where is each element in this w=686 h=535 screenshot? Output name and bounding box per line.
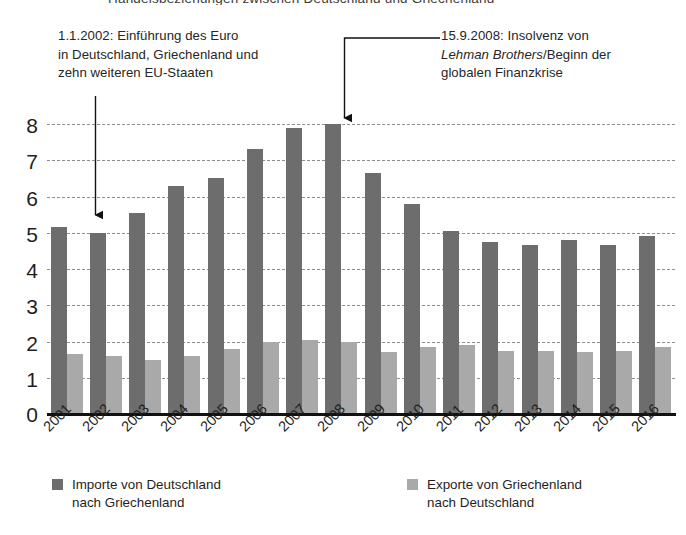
bar-export-2009[interactable] [381,352,397,414]
bar-group-2001 [47,124,86,414]
bar-import-2008[interactable] [325,124,341,414]
bar-group-2006 [243,124,282,414]
annotation-lehman-company: Lehman Brothers [441,47,543,62]
page-title: Handelsbeziehungen zwischen Deutschland … [108,0,578,5]
bar-group-2005 [204,124,243,414]
leader-line-lehman [345,38,441,118]
bar-export-2005[interactable] [224,349,240,414]
plot-area: 012345678 [47,124,675,414]
bar-group-2008 [322,124,361,414]
bar-import-2016[interactable] [639,236,655,414]
annotation-euro-line2: in Deutschland, Griechenland und [58,46,320,65]
bar-import-2013[interactable] [522,245,538,414]
bar-import-2011[interactable] [443,231,459,414]
bar-group-2007 [283,124,322,414]
annotation-euro-line1: 1.1.2002: Einführung des Euro [58,27,320,46]
bar-group-2013 [518,124,557,414]
bar-import-2002[interactable] [90,233,106,414]
bar-group-2016 [636,124,675,414]
bar-import-2006[interactable] [247,149,263,414]
bars-layer [47,124,675,414]
y-axis-tick-7: 7 [26,151,38,172]
bar-group-2003 [126,124,165,414]
y-axis-tick-8: 8 [26,115,38,136]
bar-group-2012 [479,124,518,414]
y-axis-tick-5: 5 [26,223,38,244]
bar-group-2004 [165,124,204,414]
y-axis-tick-3: 3 [26,296,38,317]
bar-import-2009[interactable] [365,173,381,414]
bar-export-2003[interactable] [145,360,161,414]
y-axis-tick-0: 0 [26,404,38,425]
bar-import-2010[interactable] [404,204,420,414]
bar-import-2014[interactable] [561,240,577,414]
bar-group-2002 [86,124,125,414]
bar-import-2007[interactable] [286,128,302,414]
bar-import-2012[interactable] [482,242,498,414]
chart-legend: Importe von Deutschland nach Griechenlan… [52,476,672,513]
chart-figure: Handelsbeziehungen zwischen Deutschland … [0,0,686,535]
annotation-lehman-line2: Lehman Brothers/Beginn der [441,46,679,65]
bar-export-2011[interactable] [459,345,475,414]
annotation-euro-line3: zehn weiteren EU-Staaten [58,64,320,83]
annotation-lehman-line2-rest: /Beginn der [543,47,611,62]
bar-group-2010 [400,124,439,414]
bar-export-2015[interactable] [616,351,632,414]
bar-import-2001[interactable] [51,227,67,414]
bar-export-2016[interactable] [655,347,671,414]
bar-import-2005[interactable] [208,178,224,414]
x-axis-labels: 2001200220032004200520062007200820092010… [47,418,675,466]
y-axis-tick-1: 1 [26,368,38,389]
bar-export-2013[interactable] [538,351,554,414]
annotation-lehman-line1: 15.9.2008: Insolvenz von [441,27,679,46]
bar-import-2004[interactable] [168,186,184,414]
bar-export-2008[interactable] [341,342,357,415]
bar-export-2002[interactable] [106,356,122,414]
legend-swatch-export [407,479,418,490]
bar-import-2015[interactable] [600,245,616,414]
x-axis-tick-2001: 2001 [40,401,74,435]
y-axis-tick-6: 6 [26,187,38,208]
legend-label-import: Importe von Deutschland nach Griechenlan… [72,476,221,513]
bar-group-2015 [597,124,636,414]
annotation-euro: 1.1.2002: Einführung des Euro in Deutsch… [58,27,320,83]
bar-export-2004[interactable] [184,356,200,414]
y-axis-tick-4: 4 [26,260,38,281]
legend-swatch-import [52,479,63,490]
bar-group-2009 [361,124,400,414]
bar-export-2006[interactable] [263,342,279,415]
legend-label-export: Exporte von Griechenland nach Deutschlan… [427,476,582,513]
x-axis-label-cell-2016: 2016 [636,418,675,466]
bar-export-2012[interactable] [498,351,514,414]
bar-export-2014[interactable] [577,352,593,414]
bar-import-2003[interactable] [129,213,145,414]
bar-export-2001[interactable] [67,354,83,414]
bar-export-2010[interactable] [420,347,436,414]
bar-export-2007[interactable] [302,340,318,414]
annotation-lehman-line3: globalen Finanzkrise [441,64,679,83]
bar-group-2014 [557,124,596,414]
annotation-lehman: 15.9.2008: Insolvenz von Lehman Brothers… [441,27,679,83]
legend-item-export[interactable]: Exporte von Griechenland nach Deutschlan… [407,476,582,513]
bar-group-2011 [440,124,479,414]
y-axis-tick-2: 2 [26,332,38,353]
legend-item-import[interactable]: Importe von Deutschland nach Griechenlan… [52,476,407,513]
